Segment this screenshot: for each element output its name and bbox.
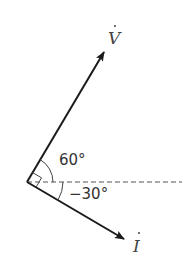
angle-label-60: 60° — [59, 153, 86, 168]
current-vector-label: I — [133, 238, 140, 255]
i-dot-accent — [138, 232, 140, 234]
v-dot-accent — [114, 25, 116, 27]
angle-arc-minus-30 — [58, 182, 63, 200]
phasor-diagram — [0, 0, 195, 271]
voltage-vector-label: V — [108, 30, 120, 47]
angle-arc-60 — [40, 160, 53, 183]
angle-label-minus-30: −30° — [69, 187, 108, 202]
